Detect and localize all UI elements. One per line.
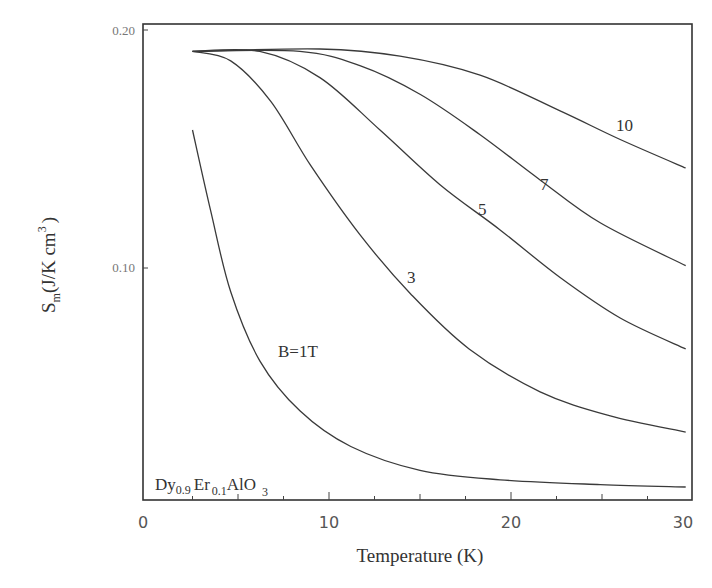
magnetic-entropy-chart: 0.20 0.10 0 10 20 30 Temperature (K) Sm(… — [0, 0, 712, 588]
x-tick-label-0: 0 — [138, 513, 148, 532]
curve-b-7t — [193, 50, 686, 265]
x-axis-ticks — [193, 492, 648, 500]
curve-b-5t — [193, 49, 686, 348]
y-axis-title: Sm(J/K cm3) — [35, 217, 63, 313]
curve-b-10t — [193, 49, 686, 168]
curve-label-10: 10 — [616, 116, 633, 135]
svg-text:Sm(J/K cm3): Sm(J/K cm3) — [35, 217, 63, 313]
curves-group — [193, 49, 686, 487]
curve-label-7: 7 — [540, 175, 549, 194]
y-tick-label-0.10: 0.10 — [112, 260, 135, 275]
plot-frame — [143, 24, 692, 500]
x-tick-label-20: 20 — [501, 513, 521, 532]
x-tick-label-10: 10 — [319, 513, 339, 532]
x-axis-title: Temperature (K) — [357, 545, 484, 567]
curve-label-3: 3 — [407, 268, 416, 287]
curve-b-3t — [193, 51, 686, 432]
formula-annotation: Dy0.9Er0.1AlO3 — [155, 475, 268, 499]
curve-label-1T: B=1T — [278, 342, 318, 361]
curve-label-5: 5 — [478, 200, 487, 219]
x-tick-label-30: 30 — [673, 513, 693, 532]
y-tick-label-0.20: 0.20 — [112, 23, 135, 38]
